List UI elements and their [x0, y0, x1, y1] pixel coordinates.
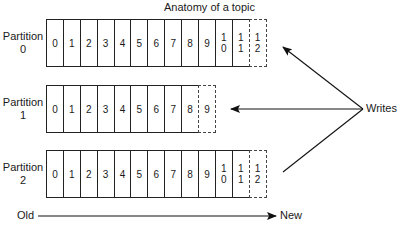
writes-label: Writes — [366, 102, 397, 114]
write-arrow-partition-0 — [283, 47, 363, 109]
new-label: New — [280, 209, 302, 221]
arrows-layer — [0, 0, 399, 230]
write-arrow-partition-2 — [283, 109, 363, 172]
topic-anatomy-diagram: Anatomy of a topic Partition 0 012345678… — [0, 0, 399, 230]
old-label: Old — [17, 209, 34, 221]
